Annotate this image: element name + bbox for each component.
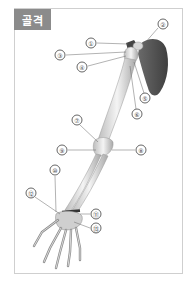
label-10: ⑩ — [50, 165, 61, 176]
radius-shape — [71, 154, 108, 214]
carpals-shape — [55, 211, 82, 230]
label-12: ⑫ — [26, 188, 37, 199]
label-6: ⑥ — [132, 109, 143, 120]
label-1: ① — [86, 38, 97, 49]
label-5: ⑤ — [140, 93, 151, 104]
label-9: ⑨ — [57, 145, 68, 156]
label-11: ⑪ — [91, 209, 102, 220]
label-13: ⑬ — [91, 223, 102, 234]
label-3: ③ — [55, 50, 66, 61]
label-7: ⑦ — [72, 115, 83, 126]
humerus-shape — [98, 58, 136, 142]
label-4: ④ — [77, 62, 88, 73]
label-8: ⑧ — [136, 145, 147, 156]
label-2: ② — [158, 19, 169, 30]
